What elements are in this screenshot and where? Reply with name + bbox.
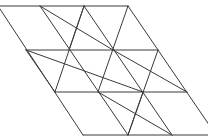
diagram-line (0, 6, 83, 135)
diagram-line (26, 50, 55, 92)
diagram-line (98, 6, 128, 92)
diagram-line (84, 6, 172, 135)
diagram-line (128, 6, 208, 135)
diagram-line (69, 6, 84, 50)
diagram-line (26, 50, 143, 92)
diagram-line (128, 92, 143, 135)
parallelogram-grid-diagram (0, 0, 208, 137)
